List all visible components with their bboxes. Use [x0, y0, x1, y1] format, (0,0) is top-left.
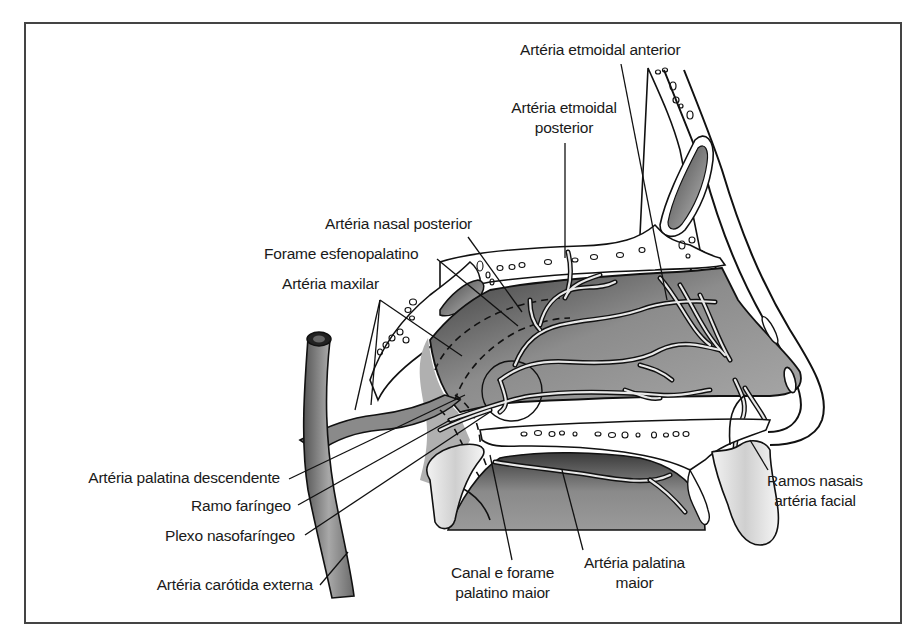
label-palatina-descendente: Artéria palatina descendente	[40, 468, 280, 487]
label-ramos-nasais-line1: Ramos nasais	[760, 471, 870, 490]
label-forame-esfenopalatino: Forame esfenopalatino	[264, 244, 418, 263]
label-canal-forame-line2: palatino maior	[440, 583, 565, 602]
label-palatina-maior-line2: maior	[572, 573, 697, 592]
label-ramos-nasais-line2: artéria facial	[760, 491, 870, 510]
nasal-anatomy-illustration	[0, 0, 922, 642]
label-etmoidal-anterior: Artéria etmoidal anterior	[520, 40, 680, 59]
label-canal-forame-line1: Canal e forame	[440, 563, 565, 582]
label-plexo-nasofaringeo: Plexo nasofaríngeo	[40, 526, 295, 545]
label-etmoidal-posterior-line2: posterior	[494, 118, 634, 137]
label-carotida-externa: Artéria carótida externa	[40, 575, 313, 594]
label-ramo-faringeo: Ramo faríngeo	[40, 496, 291, 515]
label-palatina-maior-line1: Artéria palatina	[572, 553, 697, 572]
label-etmoidal-posterior-line1: Artéria etmoidal	[494, 98, 634, 117]
label-arteria-maxilar: Artéria maxilar	[282, 274, 379, 293]
label-nasal-posterior: Artéria nasal posterior	[325, 214, 472, 233]
